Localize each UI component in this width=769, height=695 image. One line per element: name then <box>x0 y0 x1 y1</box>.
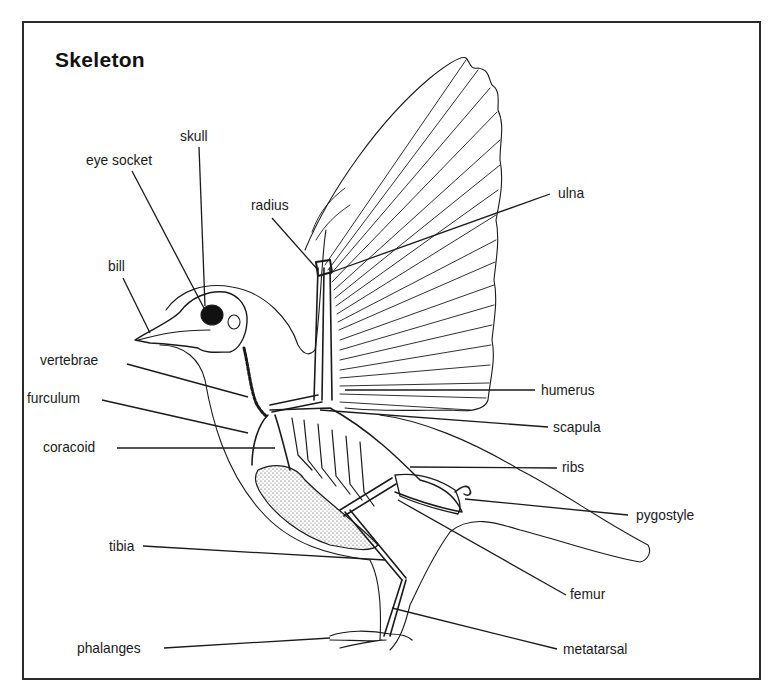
neck-vertebrae <box>244 348 266 416</box>
label-radius: radius <box>251 197 289 212</box>
label-ribs: ribs <box>562 459 584 474</box>
metatarsal-bone <box>384 580 406 636</box>
leader-lines <box>102 147 628 649</box>
pelvis <box>395 474 460 514</box>
bird-skeleton-illustration <box>0 0 769 695</box>
wing-feathers <box>312 60 500 410</box>
label-bill: bill <box>108 258 125 273</box>
wing-outline <box>305 58 502 411</box>
furculum-bone <box>252 415 268 465</box>
foot-phalanges <box>330 631 412 648</box>
radius-bone <box>314 268 332 400</box>
label-skull: skull <box>180 128 208 143</box>
coracoid-bone <box>275 415 290 470</box>
label-humerus: humerus <box>541 382 595 397</box>
sternum <box>256 466 378 550</box>
label-coracoid: coracoid <box>43 439 95 454</box>
label-scapula: scapula <box>553 419 601 434</box>
label-phalanges: phalanges <box>77 640 141 655</box>
skull <box>135 292 247 353</box>
label-ulna: ulna <box>558 185 584 200</box>
label-metatarsal: metatarsal <box>563 641 627 656</box>
label-eye-socket: eye socket <box>86 152 152 167</box>
label-tibia: tibia <box>109 538 134 553</box>
label-pygostyle: pygostyle <box>636 507 694 522</box>
label-vertebrae: vertebrae <box>40 352 98 367</box>
label-furculum: furculum <box>27 390 80 405</box>
label-femur: femur <box>570 586 605 601</box>
